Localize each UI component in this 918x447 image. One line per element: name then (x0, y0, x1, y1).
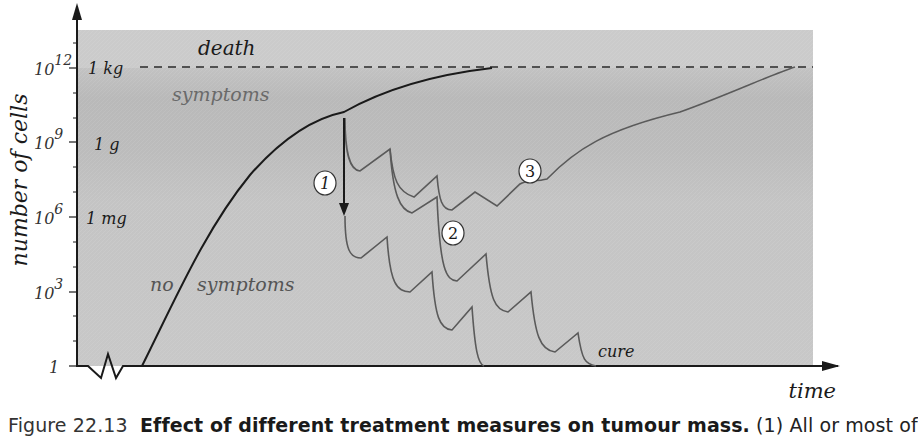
svg-text:2: 2 (448, 224, 458, 243)
tick-label-1e6: 106 (34, 201, 63, 228)
tick-label-1e3: 103 (34, 276, 63, 303)
tick-label-1e9: 109 (34, 126, 63, 153)
y-axis-arrow-icon (72, 3, 82, 20)
cure-label: cure (598, 342, 634, 361)
tick-label-1e12: 1012 (34, 52, 72, 79)
x-axis-title: time (789, 379, 837, 403)
region-label-death: death (198, 36, 255, 60)
figure-title: Effect of different treatment measures o… (140, 414, 750, 436)
svg-text:1: 1 (320, 174, 330, 193)
plot-background (78, 30, 813, 366)
figure-caption: Figure 22.13 Effect of different treatme… (8, 414, 843, 436)
region-label-no: no (150, 273, 174, 295)
mass-label-kg: 1 kg (88, 59, 123, 78)
circled-label-3: 3 (519, 159, 541, 183)
svg-text:3: 3 (525, 162, 535, 181)
x-axis-arrow-icon (822, 361, 840, 371)
y-tick-labels: 1012 109 106 103 1 (34, 52, 72, 377)
figure-caption-body: (1) All or most of (756, 414, 918, 436)
y-axis-title: number of cells (7, 94, 32, 267)
circled-label-1: 1 (314, 171, 336, 195)
mass-label-g: 1 g (94, 135, 120, 154)
region-label-no-symptoms: symptoms (197, 273, 295, 295)
circled-label-2: 2 (442, 221, 464, 245)
region-label-symptoms: symptoms (172, 83, 270, 105)
mass-label-mg: 1 mg (86, 209, 127, 228)
tick-label-1: 1 (49, 358, 59, 377)
figure-number: Figure 22.13 (8, 414, 128, 436)
